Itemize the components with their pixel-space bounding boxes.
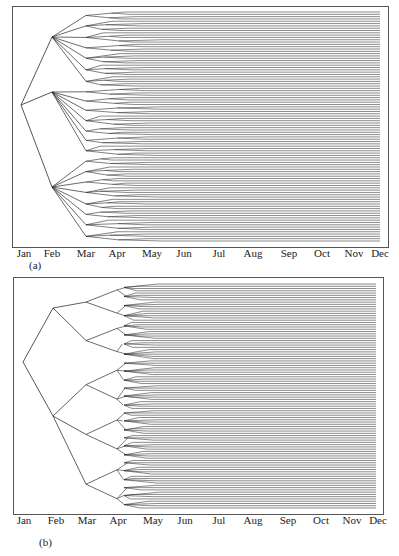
x-tick-mar: Mar	[78, 514, 96, 526]
x-tick-aug: Aug	[244, 514, 263, 526]
x-tick-oct: Oct	[313, 514, 329, 526]
x-tick-feb: Feb	[48, 514, 65, 526]
caption-b: (b)	[39, 536, 52, 548]
x-tick-may: May	[143, 514, 163, 526]
x-tick-sep: Sep	[280, 514, 297, 526]
panel-b: JanFebMarAprMayJunJulAugSepOctNovDec (b)	[0, 0, 399, 556]
x-tick-jan: Jan	[17, 514, 32, 526]
x-tick-jun: Jun	[177, 514, 192, 526]
x-tick-nov: Nov	[343, 514, 362, 526]
scenario-tree-b	[0, 0, 399, 556]
x-tick-jul: Jul	[213, 514, 226, 526]
x-tick-apr: Apr	[109, 514, 126, 526]
x-tick-dec: Dec	[369, 514, 387, 526]
